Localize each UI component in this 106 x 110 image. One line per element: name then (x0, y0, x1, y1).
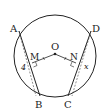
label-b: B (35, 99, 42, 110)
center-point-o (54, 53, 57, 56)
label-a: A (9, 23, 18, 34)
length-ab: 4 (20, 63, 26, 72)
right-angle-m (34, 62, 38, 67)
circle-geometry-figure: A B C D O M N 4 x (0, 0, 106, 110)
right-angle-n (71, 62, 75, 67)
label-d: D (92, 23, 100, 34)
label-n: N (70, 52, 78, 62)
label-o: O (51, 41, 59, 52)
length-cd: x (84, 62, 89, 71)
label-m: M (30, 52, 39, 62)
label-c: C (64, 99, 72, 110)
